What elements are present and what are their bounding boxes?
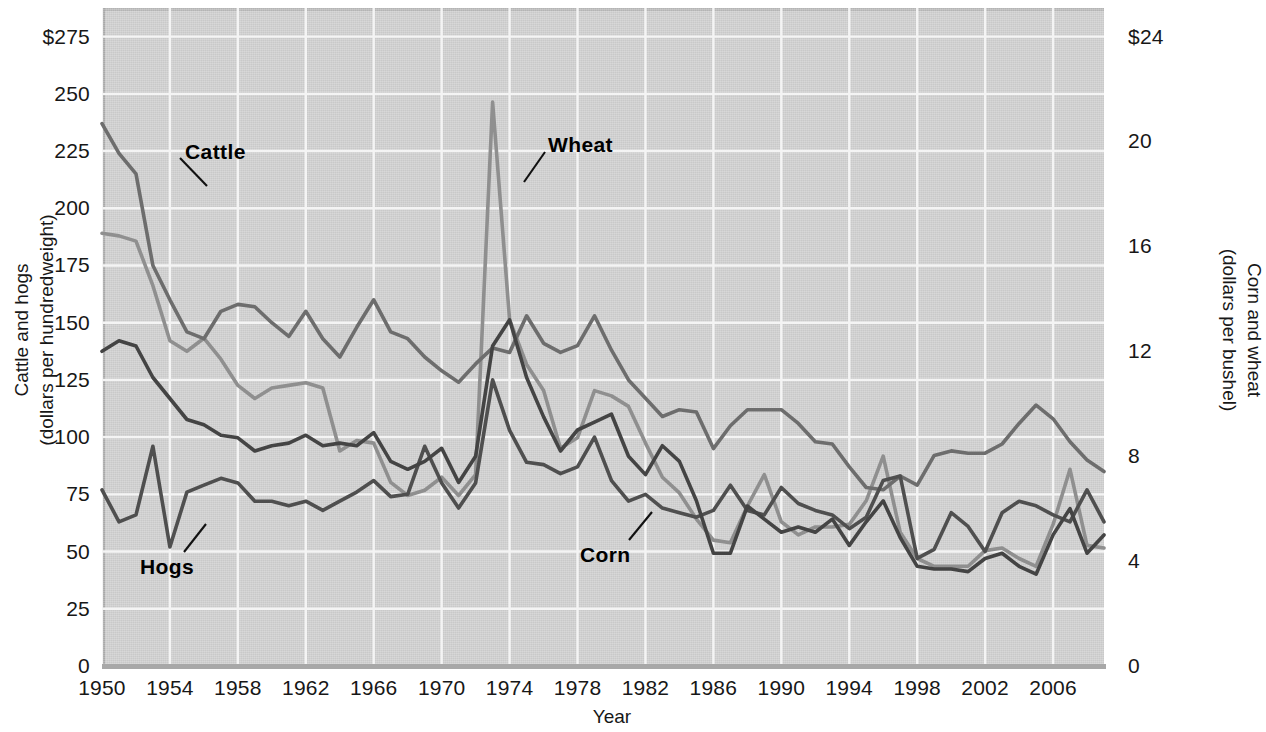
y-left-title-line: Cattle and hogs bbox=[9, 150, 34, 510]
x-axis-baseline bbox=[102, 664, 1106, 669]
series-label-wheat: Wheat bbox=[548, 133, 613, 157]
gridlines bbox=[102, 8, 1104, 666]
y-left-tick-25: 25 bbox=[0, 597, 90, 621]
y-axis-left-title: Cattle Cattle and hogs(dollars per hundr… bbox=[9, 150, 59, 510]
y-right-tick-12: 12 bbox=[1128, 339, 1218, 363]
y-left-tick-0: 0 bbox=[0, 654, 90, 678]
series-label-corn: Corn bbox=[580, 543, 631, 567]
y-left-tick-275: $275 bbox=[0, 25, 90, 49]
x-tick-2006: 2006 bbox=[1008, 676, 1098, 700]
y-right-tick-4: 4 bbox=[1128, 549, 1218, 573]
y-right-tick-0: 0 bbox=[1128, 654, 1218, 678]
y-right-title-line: (dollars per bushel) bbox=[1217, 150, 1242, 510]
y-right-tick-8: 8 bbox=[1128, 444, 1218, 468]
plot-area bbox=[102, 8, 1104, 666]
y-left-tick-50: 50 bbox=[0, 540, 90, 564]
y-right-tick-16: 16 bbox=[1128, 234, 1218, 258]
y-right-tick-20: 20 bbox=[1128, 129, 1218, 153]
plot-background-texture bbox=[102, 8, 1104, 666]
y-axis-right-title: Corn and wheat(dollars per bushel) bbox=[1217, 150, 1266, 510]
y-right-tick-24: $24 bbox=[1128, 25, 1218, 49]
series-label-hogs: Hogs bbox=[140, 555, 194, 579]
y-right-title-line: Corn and wheat bbox=[1242, 150, 1266, 510]
y-left-title-line: (dollars per hundredweight) bbox=[34, 150, 59, 510]
x-axis-title: Year bbox=[0, 706, 1224, 728]
series-label-cattle: Cattle bbox=[185, 140, 246, 164]
y-left-tick-250: 250 bbox=[0, 82, 90, 106]
